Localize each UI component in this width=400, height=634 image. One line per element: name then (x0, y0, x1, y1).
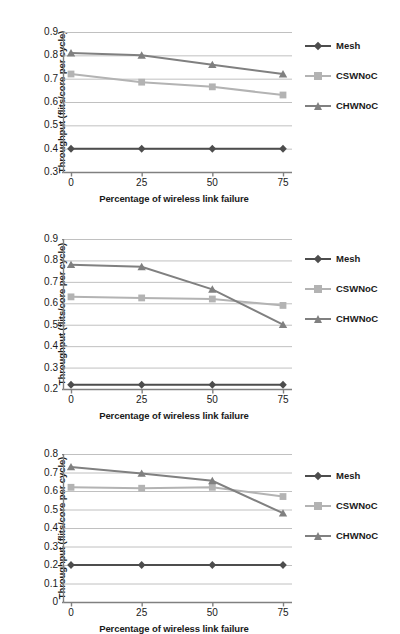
diamond-marker (279, 561, 287, 569)
triangle-marker (314, 532, 322, 540)
plot-area (62, 454, 294, 612)
legend: Mesh CSWNoC CHWNoC (305, 470, 400, 560)
y-tick-label: 0.2 (32, 560, 58, 570)
square-marker (209, 484, 216, 491)
square-marker (280, 493, 287, 500)
y-tick-label: 0.4 (32, 341, 58, 351)
y-tick-label: 0.8 (32, 255, 58, 265)
square-marker (138, 295, 145, 302)
triangle-marker (314, 315, 322, 323)
y-tick-label: 0.7 (32, 468, 58, 478)
diamond-marker (314, 255, 322, 263)
legend-label: Mesh (336, 41, 360, 51)
y-tick-label: 0.5 (32, 320, 58, 330)
diamond-marker (67, 561, 75, 569)
legend-key (305, 313, 331, 325)
legend-key (305, 283, 331, 295)
y-tick-label: 0.9 (32, 234, 58, 244)
y-tick-label: 0 (32, 597, 58, 607)
x-tick-label: 25 (129, 395, 155, 405)
square-marker (209, 83, 216, 90)
y-tick-labels: 0.20.30.40.50.60.70.80.9 (28, 239, 58, 389)
x-tick-label: 25 (129, 178, 155, 188)
legend: Mesh CSWNoC CHWNoC (305, 253, 400, 343)
square-marker (314, 285, 322, 293)
legend-label: Mesh (336, 471, 360, 481)
legend-label: CHWNoC (336, 314, 378, 324)
diamond-marker (209, 145, 217, 153)
square-marker (314, 72, 322, 80)
legend-item-cswnoc[interactable]: CSWNoC (305, 283, 378, 295)
x-tick-label: 0 (58, 395, 84, 405)
square-marker (209, 296, 216, 303)
x-axis-title: Percentage of wireless link failure (56, 410, 292, 421)
x-axis-title: Percentage of wireless link failure (56, 193, 292, 204)
y-tick-label: 0.2 (32, 384, 58, 394)
legend-label: CHWNoC (336, 101, 378, 111)
triangle-marker (314, 102, 322, 110)
square-marker (68, 484, 75, 491)
x-tick-label: 0 (58, 178, 84, 188)
chart-panel-2: Throughput (flits/core per cycle)0.20.30… (0, 211, 400, 422)
square-marker (314, 502, 322, 510)
legend-item-chwnoc[interactable]: CHWNoC (305, 530, 378, 542)
square-marker (68, 71, 75, 78)
series-line-cswnoc (71, 74, 283, 95)
legend-key (305, 40, 331, 52)
legend-item-chwnoc[interactable]: CHWNoC (305, 313, 378, 325)
y-tick-label: 0.8 (32, 449, 58, 459)
y-tick-label: 0.4 (32, 523, 58, 533)
legend-key (305, 500, 331, 512)
square-marker (280, 92, 287, 99)
x-tick-label: 50 (199, 178, 225, 188)
y-tick-labels: 00.10.20.30.40.50.60.70.8 (28, 454, 58, 602)
square-marker (138, 79, 145, 86)
x-tick-label: 25 (129, 608, 155, 618)
legend-item-mesh[interactable]: Mesh (305, 253, 360, 265)
x-tick-label: 50 (199, 395, 225, 405)
legend-label: CSWNoC (336, 71, 378, 81)
legend-label: CHWNoC (336, 531, 378, 541)
figure-container: Throughput (flits/core per cycle)0.30.40… (0, 0, 400, 634)
diamond-marker (67, 381, 75, 389)
series-line-chwnoc (71, 467, 283, 513)
x-tick-label: 75 (270, 608, 296, 618)
plot-area (62, 32, 294, 182)
legend-item-mesh[interactable]: Mesh (305, 470, 360, 482)
plot-area (62, 239, 294, 399)
y-tick-labels: 0.30.40.50.60.70.80.9 (28, 32, 58, 172)
y-tick-label: 0.7 (32, 74, 58, 84)
legend: Mesh CSWNoC CHWNoC (305, 40, 400, 130)
legend-item-cswnoc[interactable]: CSWNoC (305, 500, 378, 512)
x-tick-label: 75 (270, 178, 296, 188)
series-line-chwnoc (71, 265, 283, 325)
chart-panel-1: Throughput (flits/core per cycle)0.30.40… (0, 0, 400, 211)
y-tick-label: 0.3 (32, 542, 58, 552)
diamond-marker (138, 561, 146, 569)
chart-panel-3: Throughput (flits/core per cycle)00.10.2… (0, 422, 400, 634)
diamond-marker (314, 472, 322, 480)
y-tick-label: 0.9 (32, 27, 58, 37)
diamond-marker (138, 381, 146, 389)
y-tick-label: 0.1 (32, 579, 58, 589)
legend-label: CSWNoC (336, 501, 378, 511)
diamond-marker (67, 145, 75, 153)
legend-key (305, 470, 331, 482)
legend-item-chwnoc[interactable]: CHWNoC (305, 100, 378, 112)
diamond-marker (138, 145, 146, 153)
y-tick-label: 0.6 (32, 298, 58, 308)
legend-label: CSWNoC (336, 284, 378, 294)
legend-item-cswnoc[interactable]: CSWNoC (305, 70, 378, 82)
legend-key (305, 530, 331, 542)
y-tick-label: 0.8 (32, 50, 58, 60)
triangle-marker (279, 321, 287, 328)
diamond-marker (279, 381, 287, 389)
y-tick-label: 0.6 (32, 486, 58, 496)
x-tick-labels: 0255075 (62, 178, 294, 192)
y-tick-label: 0.5 (32, 120, 58, 130)
legend-item-mesh[interactable]: Mesh (305, 40, 360, 52)
y-tick-label: 0.3 (32, 363, 58, 373)
y-tick-label: 0.4 (32, 144, 58, 154)
diamond-marker (279, 145, 287, 153)
x-tick-labels: 0255075 (62, 395, 294, 409)
